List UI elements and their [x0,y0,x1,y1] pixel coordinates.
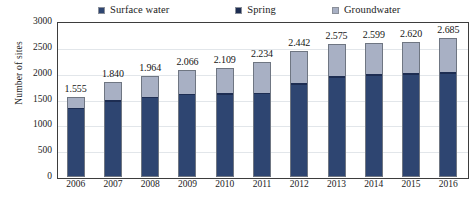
x-axis-tick-label: 2007 [103,180,122,190]
x-axis-tick-label: 2009 [178,180,197,190]
chart-legend: Surface water Spring Groundwater [90,3,390,18]
bar-group[interactable]: 2.685 [439,22,457,177]
bar-group[interactable]: 2.442 [290,22,308,177]
x-axis-tick-label: 2010 [215,180,234,190]
x-axis-tick-label: 2006 [66,180,85,190]
bar-value-label: 2.599 [363,30,385,40]
bar-stack[interactable] [439,38,457,177]
legend-item-groundwater[interactable]: Groundwater [332,5,401,16]
bar-segment-groundwater[interactable] [329,45,345,76]
bar-segment-surface-water[interactable] [440,74,456,176]
bar-segment-surface-water[interactable] [403,75,419,176]
bar-stack[interactable] [104,82,122,177]
bar-segment-groundwater[interactable] [440,39,456,72]
bar-segment-surface-water[interactable] [68,109,84,176]
x-axis-tick-label: 2011 [253,180,272,190]
bar-segment-surface-water[interactable] [366,76,382,176]
stacked-bar-chart: Surface water Spring Groundwater Number … [0,0,475,201]
bar-segment-surface-water[interactable] [142,98,158,176]
y-axis-title: Number of sites [14,28,24,118]
bar-segment-groundwater[interactable] [217,69,233,93]
legend-swatch-groundwater-icon [332,7,339,14]
legend-item-spring[interactable]: Spring [235,5,276,16]
legend-label-spring: Spring [247,5,276,16]
legend-swatch-spring-icon [235,7,242,14]
x-axis-tick-label: 2012 [290,180,309,190]
x-axis-tick-label: 2016 [439,180,458,190]
bar-segment-groundwater[interactable] [403,43,419,74]
x-axis-tick-label: 2014 [364,180,383,190]
bar-group[interactable]: 1.555 [67,22,85,177]
bar-group[interactable]: 2.234 [253,22,271,177]
bar-value-label: 2.620 [400,29,422,39]
bar-segment-groundwater[interactable] [68,98,84,108]
bar-stack[interactable] [402,42,420,177]
bar-segment-groundwater[interactable] [254,63,270,93]
legend-item-surface-water[interactable]: Surface water [98,5,169,16]
x-axis-tick-label: 2013 [327,180,346,190]
bar-value-label: 1.964 [139,63,161,73]
bar-value-label: 2.109 [214,55,236,65]
bar-segment-surface-water[interactable] [217,95,233,176]
bar-segment-surface-water[interactable] [254,94,270,176]
bar-stack[interactable] [216,68,234,177]
bar-group[interactable]: 2.109 [216,22,234,177]
y-axis-tick-label: 1000 [8,120,52,130]
bar-segment-surface-water[interactable] [105,102,121,176]
bar-value-label: 1.555 [65,84,87,94]
legend-label-surface-water: Surface water [110,5,169,16]
y-axis-tick-label: 3000 [8,17,52,27]
y-axis-tick-label: 0 [8,172,52,182]
bar-value-label: 2.442 [288,38,310,48]
bar-group[interactable]: 2.599 [365,22,383,177]
bar-group[interactable]: 1.964 [141,22,159,177]
bar-segment-surface-water[interactable] [329,78,345,176]
bar-group[interactable]: 2.575 [328,22,346,177]
bar-value-label: 2.066 [176,57,198,67]
bar-stack[interactable] [253,62,271,177]
bar-stack[interactable] [67,97,85,177]
bar-group[interactable]: 2.066 [178,22,196,177]
bar-stack[interactable] [141,76,159,177]
bar-segment-groundwater[interactable] [366,44,382,75]
x-axis-tick-label: 2015 [402,180,421,190]
bar-value-label: 2.575 [326,31,348,41]
bar-stack[interactable] [290,51,308,177]
bar-segment-surface-water[interactable] [291,85,307,176]
bar-segment-groundwater[interactable] [105,83,121,100]
bar-segment-groundwater[interactable] [142,77,158,97]
bar-value-label: 2.685 [437,25,459,35]
bar-stack[interactable] [328,44,346,177]
bar-group[interactable]: 2.620 [402,22,420,177]
bar-segment-surface-water[interactable] [179,95,195,176]
bar-segment-groundwater[interactable] [179,71,195,94]
bar-value-label: 1.840 [102,69,124,79]
bar-segment-groundwater[interactable] [291,52,307,83]
bar-series-container: 1.5551.8401.9642.0662.1092.2342.4422.575… [57,22,467,177]
bar-stack[interactable] [178,70,196,177]
legend-label-groundwater: Groundwater [344,5,401,16]
legend-swatch-surface-water-icon [98,7,105,14]
bar-group[interactable]: 1.840 [104,22,122,177]
bar-stack[interactable] [365,43,383,177]
x-axis-tick-labels: 2006200720082009201020112012201320142015… [57,180,467,196]
y-axis-tick-label: 500 [8,146,52,156]
x-axis-tick-label: 2008 [141,180,160,190]
bar-value-label: 2.234 [251,49,273,59]
